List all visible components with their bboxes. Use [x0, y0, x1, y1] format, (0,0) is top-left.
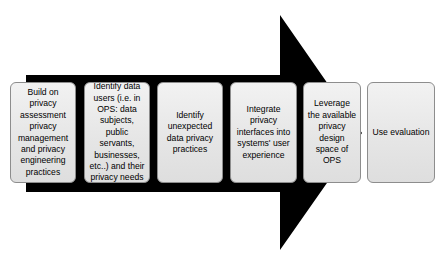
process-step-4-label: Integrate privacy interfaces into system…: [234, 104, 293, 161]
process-step-6-label: Use evaluation: [371, 127, 431, 138]
process-step-5[interactable]: Leverage the available privacy design sp…: [303, 82, 361, 183]
process-step-5-label: Leverage the available privacy design sp…: [307, 98, 357, 166]
process-step-1[interactable]: Build on privacy assessment privacy mana…: [10, 82, 76, 183]
process-step-3[interactable]: Identify unexpected data privacy practic…: [157, 82, 223, 183]
process-step-4[interactable]: Integrate privacy interfaces into system…: [230, 82, 297, 183]
process-step-2[interactable]: Identify data users (i.e. in OPS: data s…: [84, 82, 150, 183]
process-step-3-label: Identify unexpected data privacy practic…: [161, 110, 219, 156]
process-step-1-label: Build on privacy assessment privacy mana…: [14, 87, 72, 178]
process-diagram: Build on privacy assessment privacy mana…: [0, 0, 447, 266]
process-step-6[interactable]: Use evaluation: [367, 82, 435, 183]
process-step-2-label: Identify data users (i.e. in OPS: data s…: [88, 82, 146, 183]
